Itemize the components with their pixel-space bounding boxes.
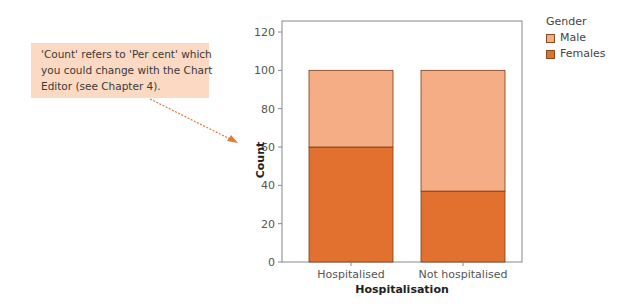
y-tick-label: 80	[261, 103, 275, 116]
bars	[309, 70, 505, 262]
legend-label-females: Females	[560, 46, 606, 62]
x-axis-title: Hospitalisation	[355, 283, 449, 296]
bar-segment-females	[309, 147, 393, 262]
bar-segment-male	[421, 70, 505, 191]
arrow-head-icon	[227, 135, 238, 143]
x-tick-label: Not hospitalised	[419, 268, 508, 281]
legend-item-male: Male	[546, 30, 606, 46]
stacked-bar-chart: 020406080100120 HospitalisedNot hospital…	[0, 0, 628, 308]
legend: Gender Male Females	[546, 14, 606, 62]
y-tick-label: 20	[261, 218, 275, 231]
legend-swatch-male	[546, 34, 555, 43]
legend-item-females: Females	[546, 46, 606, 62]
y-tick-label: 120	[254, 26, 275, 39]
callout-arrow	[150, 99, 232, 140]
y-axis-title: Count	[254, 142, 267, 179]
x-tick-label: Hospitalised	[317, 268, 384, 281]
y-tick-label: 40	[261, 179, 275, 192]
legend-title: Gender	[546, 14, 606, 30]
y-tick-label: 100	[254, 64, 275, 77]
bar-segment-male	[309, 70, 393, 147]
legend-label-male: Male	[560, 30, 586, 46]
legend-swatch-females	[546, 50, 555, 59]
bar-segment-females	[421, 191, 505, 262]
x-axis: HospitalisedNot hospitalised	[317, 262, 507, 281]
y-tick-label: 0	[268, 256, 275, 269]
